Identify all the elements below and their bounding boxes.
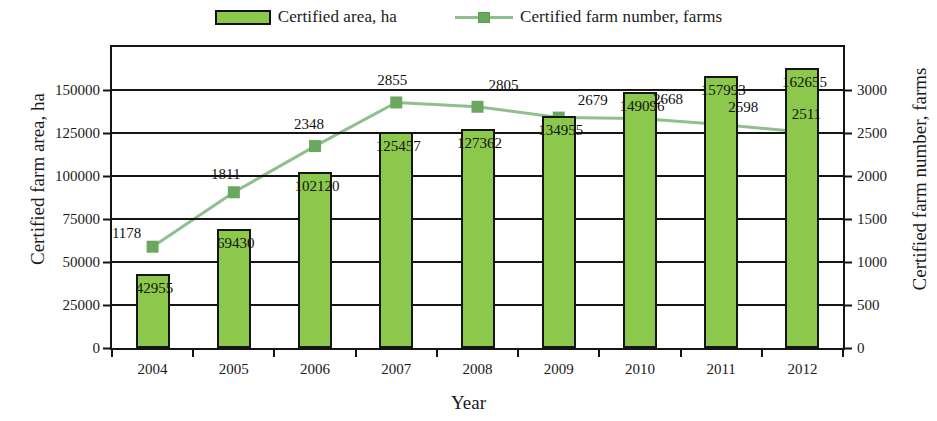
x-axis-tick-label: 2012 bbox=[787, 361, 817, 378]
x-axis-tick bbox=[842, 348, 844, 357]
line-marker bbox=[472, 101, 484, 113]
plot-area: 0250005000075000100000125000150000050010… bbox=[110, 45, 845, 350]
line-value-label: 2668 bbox=[653, 91, 683, 108]
y-axis-tick-label-right: 1000 bbox=[843, 255, 923, 270]
x-axis-tick bbox=[598, 348, 600, 357]
y-axis-tick-label-right: 500 bbox=[843, 298, 923, 313]
line-value-label: 1811 bbox=[211, 166, 240, 183]
x-axis-tick bbox=[436, 348, 438, 357]
bar-value-label: 134955 bbox=[538, 122, 583, 139]
line-value-label: 2511 bbox=[792, 106, 821, 123]
bar bbox=[623, 92, 657, 348]
line-marker bbox=[309, 140, 321, 152]
bar bbox=[379, 132, 413, 348]
bar-value-label: 125457 bbox=[376, 138, 421, 155]
y-axis-tick-label-left: 75000 bbox=[28, 212, 112, 227]
bar-value-label: 157993 bbox=[701, 82, 746, 99]
legend-label-farm-number: Certified farm number, farms bbox=[520, 7, 722, 27]
x-axis-tick bbox=[680, 348, 682, 357]
line-value-label: 2855 bbox=[377, 72, 407, 89]
x-axis-tick-label: 2004 bbox=[138, 361, 168, 378]
y-axis-tick-label-right: 3000 bbox=[843, 83, 923, 98]
bar-swatch-icon bbox=[215, 10, 271, 25]
x-axis-tick-label: 2007 bbox=[381, 361, 411, 378]
bar bbox=[542, 116, 576, 348]
legend-item-farm-number: Certified farm number, farms bbox=[455, 7, 722, 27]
x-axis-tick bbox=[517, 348, 519, 357]
bar-value-label: 69430 bbox=[217, 235, 255, 252]
line-value-label: 1178 bbox=[112, 225, 141, 242]
y-axis-tick-label-right: 2500 bbox=[843, 126, 923, 141]
bar bbox=[704, 76, 738, 348]
bar bbox=[461, 129, 495, 348]
y-axis-tick-label-left: 125000 bbox=[28, 126, 112, 141]
line-value-label: 2348 bbox=[294, 116, 324, 133]
y-axis-tick-label-right: 1500 bbox=[843, 212, 923, 227]
line-swatch-icon bbox=[455, 10, 513, 24]
bar-value-label: 162655 bbox=[782, 74, 827, 91]
chart-container: Certified area, ha Certified farm number… bbox=[0, 0, 937, 421]
x-axis-tick bbox=[273, 348, 275, 357]
legend-label-certified-area: Certified area, ha bbox=[278, 7, 397, 27]
x-axis-tick-label: 2010 bbox=[625, 361, 655, 378]
x-axis-tick-label: 2009 bbox=[544, 361, 574, 378]
line-marker bbox=[147, 241, 159, 253]
x-axis-tick bbox=[111, 348, 113, 357]
x-axis-tick bbox=[192, 348, 194, 357]
y-axis-tick-label-left: 25000 bbox=[28, 298, 112, 313]
y-axis-tick-label-left: 0 bbox=[28, 341, 112, 356]
x-axis-tick-label: 2008 bbox=[463, 361, 493, 378]
legend-item-certified-area: Certified area, ha bbox=[215, 7, 397, 27]
x-axis-tick-label: 2006 bbox=[300, 361, 330, 378]
bar bbox=[298, 172, 332, 348]
x-axis-tick-label: 2011 bbox=[706, 361, 735, 378]
line-marker bbox=[228, 186, 240, 198]
x-axis-tick bbox=[355, 348, 357, 357]
bar-value-label: 102120 bbox=[295, 178, 340, 195]
y-axis-tick-label-left: 50000 bbox=[28, 255, 112, 270]
x-axis-tick bbox=[761, 348, 763, 357]
bar-value-label: 127362 bbox=[457, 135, 502, 152]
y-axis-tick-label-right: 0 bbox=[843, 341, 923, 356]
x-axis-title: Year bbox=[0, 392, 937, 414]
y-axis-tick-label-left: 150000 bbox=[28, 83, 112, 98]
y-axis-tick-label-right: 2000 bbox=[843, 169, 923, 184]
line-value-label: 2598 bbox=[728, 99, 758, 116]
bar-value-label: 42955 bbox=[136, 280, 174, 297]
line-marker bbox=[390, 96, 402, 108]
x-axis-tick-label: 2005 bbox=[219, 361, 249, 378]
y-axis-tick-label-left: 100000 bbox=[28, 169, 112, 184]
chart-legend: Certified area, ha Certified farm number… bbox=[0, 4, 937, 30]
line-value-label: 2679 bbox=[578, 92, 608, 109]
line-value-label: 2805 bbox=[489, 77, 519, 94]
